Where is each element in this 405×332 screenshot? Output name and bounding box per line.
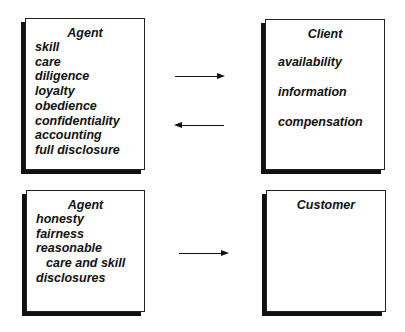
duty-item: skill (35, 40, 144, 55)
client-title: Client (266, 27, 384, 41)
duty-item: fairness (36, 227, 144, 242)
duty-item: availability (278, 55, 384, 85)
duty-item: obedience (35, 99, 144, 114)
agent-title: Agent (26, 26, 144, 40)
duty-item: honesty (36, 212, 144, 227)
agent-customer-duties-box: Agent honesty fairness reasonable care a… (26, 190, 145, 312)
duty-item: reasonable (36, 241, 144, 256)
arrowhead-left-icon (174, 122, 182, 128)
duty-item: loyalty (35, 84, 144, 99)
client-duties-box: Client availability information compensa… (265, 19, 385, 170)
duty-item: care (35, 55, 144, 70)
duty-item: accounting (35, 128, 144, 143)
arrowhead-right-icon (221, 250, 229, 256)
agent-duties-list: honesty fairness reasonable care and ski… (27, 212, 144, 286)
customer-title: Customer (267, 198, 385, 212)
duty-item: full disclosure (35, 143, 144, 158)
agent-client-duties-box: Agent skill care diligence loyalty obedi… (25, 18, 145, 170)
duty-item: confidentiality (35, 114, 144, 129)
duty-item: care and skill (36, 256, 144, 271)
duty-item: diligence (35, 69, 144, 84)
agent-title: Agent (27, 198, 144, 212)
arrowhead-right-icon (217, 73, 225, 79)
duty-item: disclosures (36, 271, 144, 286)
duty-item: compensation (278, 115, 384, 145)
customer-box: Customer (266, 190, 386, 312)
client-duties-list: availability information compensation (266, 55, 384, 145)
duty-item: information (278, 85, 384, 115)
agent-duties-list: skill care diligence loyalty obedience c… (26, 40, 144, 158)
